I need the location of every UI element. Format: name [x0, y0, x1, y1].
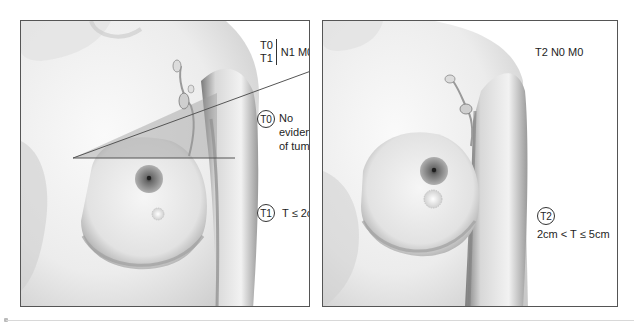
- panel-t2-n0-m0: T2 N0 M0 T2 2cm < T ≤ 5cm: [322, 20, 618, 307]
- badge-t1: T1: [257, 204, 275, 222]
- bracket-divider: [276, 39, 277, 65]
- annotation-t0: T0: [257, 110, 275, 128]
- tumor-t2-icon: [424, 190, 442, 208]
- panel-t0-t1-n1-m0: T0 T1 N1 M0 T0 No evidence of tumor T1 T…: [20, 20, 310, 307]
- stage-header-right: T2 N0 M0: [535, 46, 583, 59]
- annotation-t2-text: 2cm < T ≤ 5cm: [537, 228, 610, 241]
- badge-t0: T0: [257, 110, 275, 128]
- badge-t2: T2: [537, 207, 555, 225]
- annotation-t0-text: No evidence of tumor: [279, 111, 310, 153]
- stage-header-left: T0 T1 N1 M0: [260, 39, 310, 65]
- torso-illustration-right: [323, 21, 618, 307]
- annotation-t2: T2: [537, 207, 555, 225]
- tumor-t1-icon: [152, 208, 164, 220]
- annotation-t1: T1 T ≤ 2cm: [257, 204, 310, 222]
- t-options: T0 T1: [260, 39, 273, 65]
- footer-divider: [6, 320, 634, 321]
